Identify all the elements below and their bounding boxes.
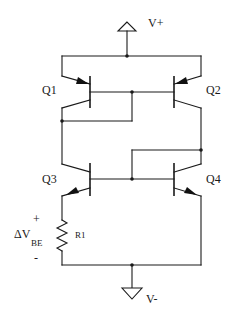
q2-label: Q2: [206, 83, 221, 97]
circuit-schematic: V+ Q1 Q2: [0, 0, 233, 315]
resistor-r1: R1: [57, 196, 86, 265]
vminus-terminal-icon: [122, 288, 142, 299]
q3-emitter-arrow-icon: [66, 187, 79, 195]
q1-emitter-arrow-icon: [76, 77, 89, 84]
delta-v-label: ΔV: [14, 227, 31, 241]
vplus-label: V+: [148, 16, 164, 30]
junction-dot: [199, 148, 203, 152]
q3-label: Q3: [42, 172, 57, 186]
q4-collector-lead: [174, 164, 201, 172]
junction-dot: [125, 54, 129, 58]
resistor-zigzag-icon: [57, 220, 67, 251]
q1-collector-lead: [62, 100, 90, 108]
r1-label: R1: [75, 230, 86, 240]
be-subscript: BE: [31, 238, 43, 248]
transistor-q3: Q3: [42, 163, 90, 196]
vplus-terminal-icon: [118, 22, 136, 31]
plus-sign: +: [33, 212, 40, 226]
transistor-q1: Q1: [42, 76, 90, 108]
vminus-supply: V-: [62, 263, 201, 306]
transistor-q2: Q2: [174, 76, 221, 108]
q4-emitter-arrow-icon: [184, 187, 197, 195]
q1-label: Q1: [42, 83, 57, 97]
q2-emitter-arrow-icon: [175, 77, 188, 84]
minus-sign: -: [34, 251, 38, 265]
q3-collector-lead: [62, 164, 90, 172]
top-base-network: [60, 90, 174, 123]
junction-dot: [130, 177, 134, 181]
top-rail: [62, 54, 201, 76]
vplus-supply: V+: [118, 16, 164, 56]
transistor-q4: Q4: [174, 163, 221, 196]
q4-label: Q4: [206, 172, 221, 186]
delta-vbe-annotation: + ΔV BE -: [14, 212, 43, 265]
q2-collector-lead: [174, 100, 201, 108]
vminus-label: V-: [146, 292, 158, 306]
bottom-base-network: [90, 148, 203, 181]
